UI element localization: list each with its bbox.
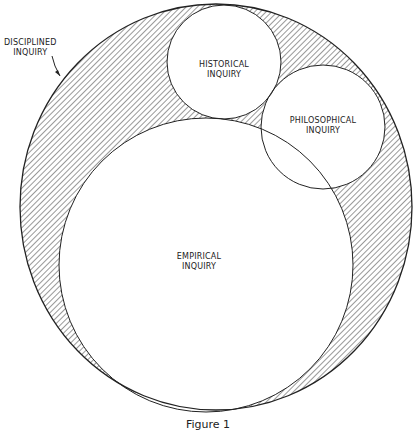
- label-line: INQUIRY: [4, 48, 57, 58]
- label-line: DISCIPLINED: [4, 38, 57, 48]
- arrow-icon: [52, 56, 60, 76]
- historical-inquiry-label: HISTORICAL INQUIRY: [184, 60, 264, 80]
- label-line: EMPIRICAL: [164, 252, 234, 262]
- label-line: INQUIRY: [276, 126, 370, 136]
- disciplined-inquiry-label: DISCIPLINED INQUIRY: [4, 38, 57, 58]
- label-line: INQUIRY: [164, 262, 234, 272]
- philosophical-inquiry-label: PHILOSOPHICAL INQUIRY: [276, 116, 370, 136]
- figure-caption: Figure 1: [0, 418, 416, 431]
- label-line: HISTORICAL: [184, 60, 264, 70]
- label-line: PHILOSOPHICAL: [276, 116, 370, 126]
- empirical-inquiry-label: EMPIRICAL INQUIRY: [164, 252, 234, 272]
- label-line: INQUIRY: [184, 70, 264, 80]
